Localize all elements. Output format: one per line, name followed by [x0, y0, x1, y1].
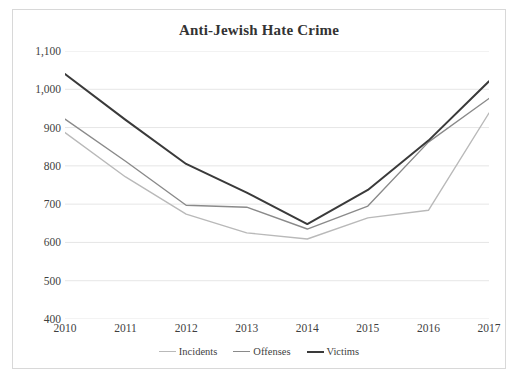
x-tick-label: 2013 [235, 322, 258, 334]
x-tick-label: 2016 [417, 322, 440, 334]
legend-line-icon [159, 351, 176, 352]
x-tick-label: 2011 [114, 322, 137, 334]
legend-label: Offenses [253, 346, 290, 357]
x-axis-tick-labels: 20102011201220132014201520162017 [65, 322, 489, 340]
y-axis-tick-labels: 4005006007008009001,0001,100 [13, 51, 61, 319]
x-tick-label: 2015 [356, 322, 379, 334]
line-chart-svg [65, 51, 489, 319]
y-tick-label: 600 [15, 236, 61, 248]
chart-title: Anti-Jewish Hate Crime [13, 22, 505, 39]
y-tick-label: 1,000 [15, 83, 61, 95]
x-tick-label: 2012 [175, 322, 198, 334]
legend-label: Incidents [179, 346, 218, 357]
series-line-victims [65, 74, 489, 224]
chart-legend: IncidentsOffensesVictims [13, 346, 505, 357]
chart-frame: Anti-Jewish Hate Crime 40050060070080090… [12, 9, 506, 369]
y-tick-label: 800 [15, 160, 61, 172]
x-tick-label: 2017 [478, 322, 501, 334]
x-tick-label: 2014 [296, 322, 319, 334]
y-tick-label: 900 [15, 122, 61, 134]
plot-area [65, 51, 489, 319]
x-tick-label: 2010 [54, 322, 77, 334]
legend-line-icon [233, 351, 250, 352]
y-tick-label: 700 [15, 198, 61, 210]
legend-item-offenses[interactable]: Offenses [233, 346, 290, 357]
legend-item-victims[interactable]: Victims [307, 346, 360, 357]
y-tick-label: 500 [15, 275, 61, 287]
y-tick-label: 1,100 [15, 45, 61, 57]
series-line-incidents [65, 113, 489, 239]
legend-line-icon [307, 351, 324, 353]
legend-item-incidents[interactable]: Incidents [159, 346, 218, 357]
legend-label: Victims [327, 346, 360, 357]
